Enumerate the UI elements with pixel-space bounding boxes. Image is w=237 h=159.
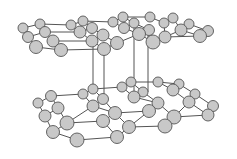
bottom-layer-atom (183, 96, 195, 108)
top-layer-atom (175, 24, 187, 36)
bottom-layer-atom (97, 115, 110, 128)
top-layer-atom (111, 37, 124, 50)
top-layer-atom (108, 17, 118, 27)
top-layer-atoms (18, 12, 214, 57)
bottom-layer-atom (123, 121, 136, 134)
bottom-layer-atom (47, 126, 60, 139)
bottom-layer-atom (88, 84, 98, 94)
top-layer-atom (87, 23, 98, 34)
bottom-layer-atom (117, 82, 127, 92)
bottom-layer-atom (153, 77, 163, 87)
top-layer-atom (23, 32, 34, 43)
top-layer-atom (145, 12, 155, 22)
top-layer-atom (40, 27, 51, 38)
bottom-layer-atom (128, 91, 140, 103)
top-layer-atom (119, 23, 130, 34)
top-layer-atom (97, 29, 109, 41)
top-layer-atom (78, 16, 88, 26)
bottom-layer-atom (109, 107, 122, 120)
bottom-layer-atom (39, 110, 51, 122)
bottom-layer-atom (33, 98, 43, 108)
bottom-layer-atom (98, 94, 109, 105)
bottom-layer-atom (60, 116, 74, 130)
graphite-bilayer-diagram (0, 0, 237, 159)
top-layer-atom (133, 28, 146, 41)
bottom-layer-atom (46, 91, 57, 102)
bottom-layer-atom (167, 84, 179, 96)
top-layer-atom (74, 26, 86, 38)
top-layer-atom (129, 18, 139, 28)
top-layer-atom (168, 13, 178, 23)
bottom-layer-atom (158, 119, 172, 133)
top-layer-atom (55, 44, 68, 57)
top-layer-atom (98, 43, 111, 56)
top-layer-atom (30, 41, 43, 54)
top-layer-atom (146, 35, 160, 49)
bottom-layer-atom (126, 77, 136, 87)
bottom-layer-atom (78, 89, 88, 99)
bottom-layer-atom (202, 109, 214, 121)
top-layer-atom (66, 20, 76, 30)
bottom-layer-atom (52, 102, 64, 114)
bottom-layer-atom (111, 131, 124, 144)
top-layer-atom (194, 30, 207, 43)
bottom-layer-atom (87, 100, 99, 112)
top-layer-atom (86, 35, 98, 47)
bottom-layer-atom (70, 133, 84, 147)
top-layer-atom (118, 12, 128, 22)
top-layer-atom (159, 18, 169, 28)
bottom-layer-atom (143, 105, 156, 118)
top-layer-atom (159, 31, 171, 43)
